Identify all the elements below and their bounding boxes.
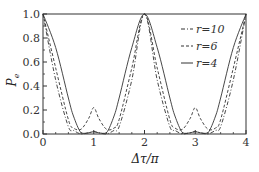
x-axis-label: Δτ/π: [130, 152, 159, 166]
y-tick-label: 0.8: [23, 32, 41, 45]
y-axis-label: Pe: [5, 73, 21, 87]
y-tick-label: 1.0: [23, 8, 41, 21]
chart-svg: 01234 0.00.20.40.60.81.0 r=10r=6r=4 Δτ/π…: [0, 0, 259, 172]
x-tick-label: 2: [141, 136, 148, 149]
svg-text:Pe: Pe: [5, 73, 21, 87]
legend-label: r=4: [196, 57, 217, 70]
x-tick-label: 3: [192, 136, 199, 149]
legend-label: r=10: [196, 23, 224, 36]
legend-label: r=6: [196, 40, 217, 53]
x-tick-label: 1: [90, 136, 97, 149]
y-tick-label: 0.2: [23, 104, 41, 117]
y-tick-label: 0.0: [23, 128, 41, 141]
x-tick-label: 0: [40, 136, 47, 149]
x-tick-label: 4: [243, 136, 250, 149]
legend: r=10r=6r=4: [181, 23, 224, 70]
y-tick-label: 0.4: [23, 80, 41, 93]
y-tick-label: 0.6: [23, 56, 41, 69]
y-axis-label-sub: e: [12, 73, 21, 78]
x-axis-ticks: 01234: [40, 130, 250, 149]
